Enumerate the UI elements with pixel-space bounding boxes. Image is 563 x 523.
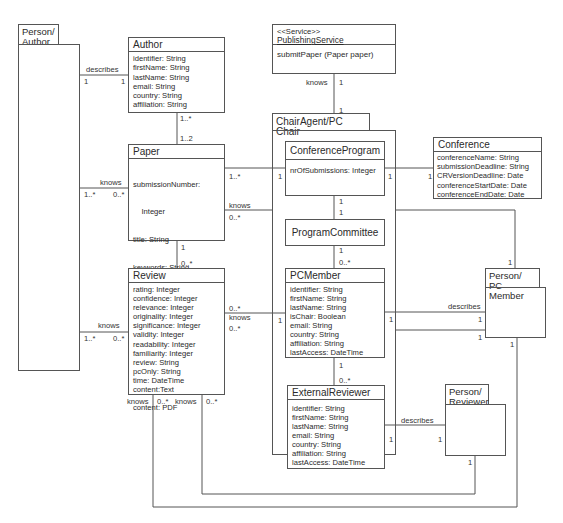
- multiplicity: 0..*: [339, 376, 350, 385]
- multiplicity: 1: [181, 243, 185, 252]
- attribute: conferenceStartDate: Date: [437, 181, 538, 190]
- attribute: conferenceEndDate: Date: [437, 190, 538, 199]
- attribute: lastAccess: DateTime: [292, 458, 380, 467]
- class-title: ProgramCommittee: [286, 220, 384, 245]
- attribute: title: String: [133, 235, 220, 244]
- attribute: rating: Integer: [133, 285, 220, 294]
- assoc-label: knows: [175, 397, 197, 406]
- attribute: content:Text: [133, 385, 220, 394]
- multiplicity: 1: [278, 316, 282, 325]
- multiplicity: 1: [478, 333, 482, 342]
- class-title: Review: [129, 269, 224, 283]
- assoc-label: knows: [127, 397, 149, 406]
- attribute: country: String: [133, 91, 220, 100]
- multiplicity: 0..*: [229, 213, 240, 222]
- multiplicity: 0..*: [206, 397, 217, 406]
- attribute: review: String: [133, 358, 220, 367]
- attribute: significance: Integer: [133, 321, 220, 330]
- attribute: submissionNumber:: [133, 180, 220, 189]
- attribute: affiliation: String: [292, 449, 380, 458]
- attribute: lastName: String: [290, 303, 380, 312]
- class-title: PCMember: [286, 269, 384, 283]
- assoc-label: knows: [98, 321, 120, 330]
- attribute: country: String: [290, 330, 380, 339]
- attribute: email: String: [133, 82, 220, 91]
- assoc-label: describes: [86, 65, 119, 74]
- attribute: lastName: String: [133, 73, 220, 82]
- class-title: PublishingService: [277, 36, 391, 45]
- class-program-committee: ProgramCommittee: [285, 219, 385, 246]
- multiplicity: 1..2: [180, 134, 193, 143]
- attribute: validity: Integer: [133, 330, 220, 339]
- multiplicity: 1: [339, 246, 343, 255]
- multiplicity: 1: [339, 361, 343, 370]
- multiplicity: 1: [339, 78, 343, 87]
- attribute: lastName: String: [292, 422, 380, 431]
- person-reviewer-tab: Person/ Reviewer: [445, 384, 489, 405]
- multiplicity: 1: [339, 106, 343, 115]
- class-external-reviewer: ExternalReviewer identifier: String firs…: [287, 385, 385, 469]
- multiplicity: 1: [468, 458, 472, 467]
- attribute: relevance: Integer: [133, 303, 220, 312]
- attribute: affiliation: String: [290, 339, 380, 348]
- class-author: Author identifier: String firstName: Str…: [128, 37, 225, 113]
- multiplicity: 1..*: [229, 172, 240, 181]
- class-paper: Paper submissionNumber: Integer title: S…: [128, 144, 225, 241]
- class-conference: Conference conferenceName: String submis…: [433, 137, 542, 199]
- class-title: ExternalReviewer: [288, 386, 384, 400]
- multiplicity: 1..*: [180, 114, 191, 123]
- person-author-tab: Person/ Author: [18, 24, 59, 45]
- class-title: Author: [129, 38, 224, 52]
- multiplicity: 0..*: [229, 304, 240, 313]
- multiplicity: 0..*: [181, 259, 192, 268]
- multiplicity: 1: [339, 197, 343, 206]
- attribute: email: String: [292, 431, 380, 440]
- attribute: identifier: String: [292, 404, 380, 413]
- attribute: Integer: [133, 207, 220, 216]
- class-pc-member: PCMember identifier: String firstName: S…: [285, 268, 385, 358]
- operations: submitPaper (Paper paper): [273, 45, 395, 61]
- assoc-label: describes: [401, 416, 434, 425]
- multiplicity: 1: [121, 77, 125, 86]
- class-title: Paper: [129, 145, 224, 159]
- assoc-label: knows: [229, 313, 251, 322]
- assoc-label: knows: [229, 201, 251, 210]
- multiplicity: 1: [508, 258, 512, 267]
- chair-agent-tab: ChairAgent/PC Chair: [272, 113, 370, 131]
- attribute: affiliation: String: [133, 100, 220, 109]
- multiplicity: 1: [510, 340, 514, 349]
- attribute: firstName: String: [290, 294, 380, 303]
- attribute: nrOfSubmissions: Integer: [290, 166, 380, 175]
- class-title: ConferenceProgram: [286, 142, 384, 160]
- multiplicity: 1: [438, 435, 442, 444]
- attribute: firstName: String: [292, 413, 380, 422]
- attribute: familiarity: Integer: [133, 349, 220, 358]
- attributes: rating: Integer confidence: Integer rele…: [129, 283, 224, 396]
- class-conference-program: ConferenceProgram nrOfSubmissions: Integ…: [285, 141, 385, 196]
- attribute: country: String: [292, 440, 380, 449]
- assoc-label: knows: [100, 178, 122, 187]
- attribute: isChair: Boolean: [290, 312, 380, 321]
- person-pc-member-box: [485, 287, 546, 338]
- attribute: identifier: String: [133, 54, 220, 63]
- attributes: conferenceName: String submissionDeadlin…: [434, 152, 541, 200]
- person-author-box: [18, 44, 80, 371]
- multiplicity: 0..*: [113, 334, 124, 343]
- multiplicity: 1: [84, 77, 88, 86]
- assoc-label: knows: [306, 78, 328, 87]
- attribute: confidence: Integer: [133, 294, 220, 303]
- multiplicity: 0..*: [113, 190, 124, 199]
- operation: submitPaper (Paper paper): [277, 50, 391, 59]
- multiplicity: 1: [428, 172, 432, 181]
- attributes: nrOfSubmissions: Integer: [286, 160, 384, 177]
- attributes: identifier: String firstName: String las…: [286, 283, 384, 359]
- attribute: email: String: [290, 321, 380, 330]
- attribute: readability: Integer: [133, 340, 220, 349]
- attribute: lastAccess: DateTime: [290, 348, 380, 357]
- multiplicity: 0..*: [339, 258, 350, 267]
- attribute: originality: Integer: [133, 312, 220, 321]
- class-review: Review rating: Integer confidence: Integ…: [128, 268, 225, 395]
- multiplicity: 1..*: [84, 334, 95, 343]
- multiplicity: 1: [339, 208, 343, 217]
- multiplicity: 1..*: [84, 190, 95, 199]
